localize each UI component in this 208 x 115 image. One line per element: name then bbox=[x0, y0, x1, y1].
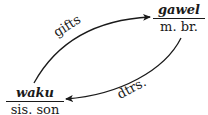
gawel-term: gawel bbox=[153, 3, 205, 17]
waku-node: waku sis. son bbox=[6, 86, 64, 115]
waku-term: waku bbox=[6, 86, 64, 100]
waku-gloss: sis. son bbox=[6, 103, 64, 115]
gawel-node: gawel m. br. bbox=[153, 3, 205, 34]
gawel-gloss: m. br. bbox=[153, 20, 205, 34]
